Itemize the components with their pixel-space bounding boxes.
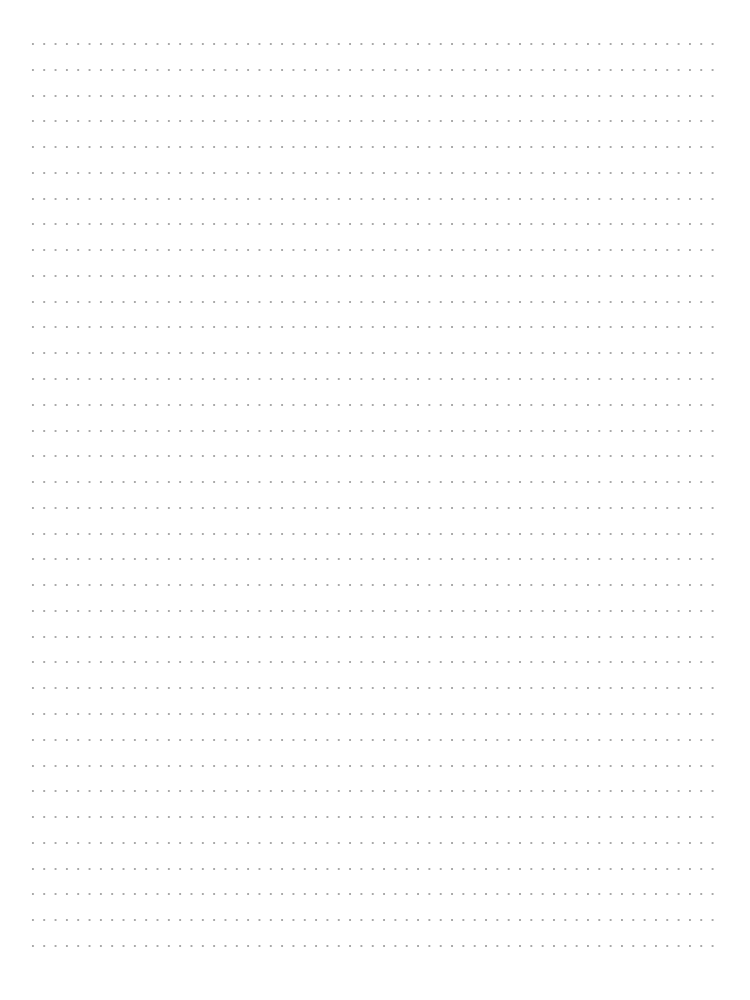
dotted-line-row <box>31 351 716 355</box>
dotted-line-row <box>31 325 716 329</box>
dotted-line-row <box>31 635 716 639</box>
dotted-line-row <box>31 480 716 484</box>
dotted-line-row <box>31 789 716 793</box>
dotted-line-row <box>31 94 716 98</box>
dotted-line-row <box>31 377 716 381</box>
dotted-line-row <box>31 712 716 716</box>
dotted-line-row <box>31 145 716 149</box>
dotted-line-row <box>31 738 716 742</box>
dotted-line-row <box>31 429 716 433</box>
dotted-line-row <box>31 764 716 768</box>
dotted-line-row <box>31 171 716 175</box>
dotted-line-row <box>31 222 716 226</box>
dotted-line-row <box>31 815 716 819</box>
dotted-paper-sheet: dotted-line writing paper <box>0 0 750 1000</box>
dotted-line-row <box>31 300 716 304</box>
dotted-line-row <box>31 532 716 536</box>
dotted-line-row <box>31 68 716 72</box>
dotted-line-row <box>31 197 716 201</box>
dotted-line-row <box>31 274 716 278</box>
dotted-line-row <box>31 557 716 561</box>
dotted-line-row <box>31 403 716 407</box>
dotted-line-row <box>31 918 716 922</box>
dotted-line-row <box>31 506 716 510</box>
dotted-line-row <box>31 454 716 458</box>
dotted-line-row <box>31 583 716 587</box>
dotted-line-row <box>31 944 716 948</box>
dotted-line-row <box>31 119 716 123</box>
dotted-line-row <box>31 892 716 896</box>
dotted-line-row <box>31 660 716 664</box>
dotted-line-row <box>31 686 716 690</box>
dotted-line-row <box>31 867 716 871</box>
dotted-line-row <box>31 609 716 613</box>
dotted-line-row <box>31 248 716 252</box>
dotted-line-row <box>31 42 716 46</box>
dotted-line-row <box>31 841 716 845</box>
